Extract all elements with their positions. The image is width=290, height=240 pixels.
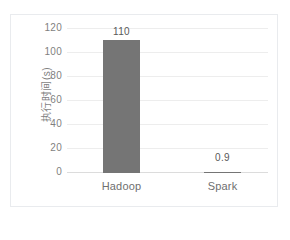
y-tick-label: 60 [28,95,62,105]
y-tick-label: 80 [28,71,62,81]
x-tick-label-hadoop: Hadoop [91,180,152,192]
x-tick-label-spark: Spark [192,180,253,192]
y-axis-tick-labels: 120 100 80 60 40 20 0 [26,28,62,173]
y-tick-label: 100 [28,47,62,57]
gridline [67,124,268,125]
y-tick-label: 20 [28,143,62,153]
x-axis-tick-labels: Hadoop Spark [67,180,268,198]
gridline [67,76,268,77]
y-tick-label: 0 [28,167,62,177]
gridline [67,100,268,101]
bar-spark[interactable] [204,172,241,173]
bar-value-spark: 0.9 [198,152,247,163]
y-tick-label: 40 [28,119,62,129]
bar-value-hadoop: 110 [97,26,146,37]
gridline [67,52,268,53]
bar-hadoop[interactable] [103,40,140,173]
gridline [67,148,268,149]
y-tick-label: 120 [28,23,62,33]
plot-area: 110 0.9 [67,28,268,173]
